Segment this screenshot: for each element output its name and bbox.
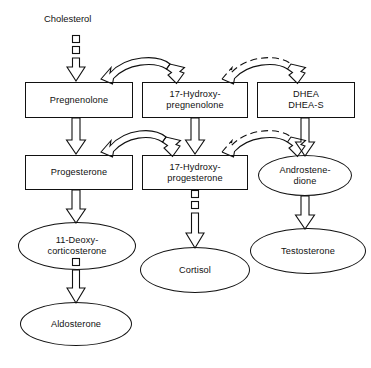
- node-cortisol[interactable]: Cortisol: [140, 247, 250, 293]
- node-androstenedione[interactable]: Androstene- dione: [258, 155, 352, 196]
- edge-pregnenolone-to-17-hydroxy-pregnenolone: [101, 58, 185, 84]
- node-11-deoxycorticosterone-line2: corticosterone: [47, 246, 106, 257]
- edge-progesterone-to-11-deoxycorticosterone: [67, 190, 86, 223]
- edge-17-hydroxy-pregnenolone-to-17-hydroxy-progesterone: [186, 118, 205, 154]
- node-11-deoxycorticosterone[interactable]: 11-Deoxy- corticosterone: [18, 222, 136, 270]
- node-progesterone[interactable]: Progesterone: [25, 155, 133, 190]
- node-cortisol-line1: Cortisol: [179, 265, 211, 276]
- node-aldosterone[interactable]: Aldosterone: [20, 302, 132, 346]
- node-17-hydroxy-progesterone[interactable]: 17-Hydroxy- progesterone: [142, 155, 248, 190]
- node-17-hydroxy-pregnenolone-line1: 17-Hydroxy-: [166, 89, 223, 100]
- edge-androstenedione-to-testosterone: [296, 196, 315, 229]
- node-17-hydroxy-pregnenolone[interactable]: 17-Hydroxy- pregnenolone: [142, 82, 248, 118]
- node-11-deoxycorticosterone-line1: 11-Deoxy-: [47, 235, 106, 246]
- node-dhea[interactable]: DHEA DHEA-S: [257, 82, 355, 118]
- edge-progesterone-to-17-hydroxy-progesterone: [101, 131, 181, 157]
- node-17-hydroxy-progesterone-line1: 17-Hydroxy-: [167, 162, 222, 173]
- node-dhea-line2: DHEA-S: [288, 100, 323, 111]
- node-17-hydroxy-progesterone-line2: progesterone: [167, 173, 222, 184]
- node-dhea-line1: DHEA: [288, 89, 323, 100]
- node-17-hydroxy-pregnenolone-line2: pregnenolone: [166, 100, 223, 111]
- node-pregnenolone-line1: Pregnenolone: [50, 95, 108, 106]
- node-androstenedione-line2: dione: [279, 176, 330, 187]
- edge-pregnenolone-to-progesterone: [67, 118, 86, 154]
- pathway-diagram: Cholesterol Pregnenolone 17-Hydroxy- pre…: [0, 0, 371, 368]
- node-androstenedione-line1: Androstene-: [279, 165, 330, 176]
- node-aldosterone-line1: Aldosterone: [51, 319, 101, 330]
- node-testosterone-line1: Testosterone: [281, 246, 335, 257]
- node-pregnenolone[interactable]: Pregnenolone: [25, 82, 133, 118]
- cholesterol-label: Cholesterol: [44, 13, 91, 24]
- edge-dhea-to-androstenedione: [296, 118, 315, 156]
- edge-17-hydroxy-progesterone-to-cortisol: [186, 191, 204, 249]
- edge-17-hydroxy-pregnenolone-to-dhea: [222, 58, 306, 84]
- node-testosterone[interactable]: Testosterone: [250, 228, 366, 274]
- edge-cholesterol-to-pregnenolone: [67, 36, 85, 82]
- edge-17-hydroxy-progesterone-to-androstenedione: [222, 131, 306, 157]
- node-progesterone-line1: Progesterone: [51, 167, 107, 178]
